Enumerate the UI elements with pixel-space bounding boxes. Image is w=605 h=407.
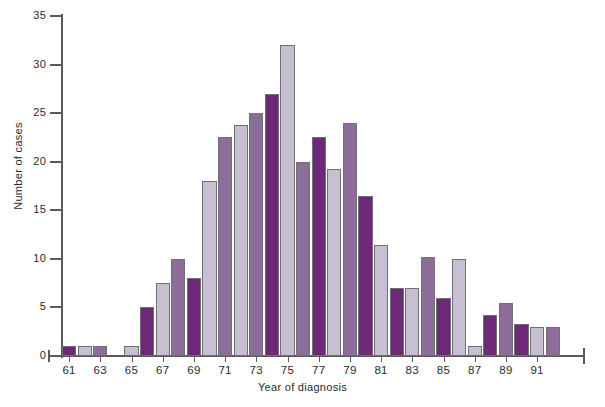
x-tick-73 [256, 355, 257, 362]
y-tick-label-wrap: 30 [20, 59, 46, 71]
x-tick-69 [194, 355, 195, 362]
bar-67 [156, 283, 170, 356]
y-tick-0 [50, 355, 62, 357]
bar-77 [312, 137, 326, 356]
x-tick-label: 73 [243, 364, 269, 377]
y-tick-25 [50, 112, 62, 114]
bar-84 [421, 257, 435, 356]
bar-89 [499, 303, 513, 356]
y-tick-label: 20 [24, 156, 46, 167]
bar-80 [358, 196, 372, 356]
x-axis-title: Year of diagnosis [0, 381, 605, 393]
y-tick-label-wrap: 10 [20, 253, 46, 265]
bar-68 [171, 259, 185, 356]
y-tick-label: 30 [24, 59, 46, 70]
y-tick-30 [50, 64, 62, 66]
x-axis-end-tick [583, 348, 585, 364]
bar-73 [249, 113, 263, 356]
x-tick-label: 61 [56, 364, 82, 377]
y-tick-label: 25 [24, 107, 46, 118]
bar-61 [62, 346, 76, 356]
bar-85 [436, 298, 450, 356]
bar-69 [187, 278, 201, 356]
bar-chart: 05101520253035 6163656769717375777981838… [0, 0, 605, 407]
bar-91 [530, 327, 544, 356]
x-tick-61 [69, 355, 70, 362]
x-tick-63 [100, 355, 101, 362]
bar-79 [343, 123, 357, 356]
x-tick-81 [381, 355, 382, 362]
x-tick-label: 67 [150, 364, 176, 377]
bar-63 [93, 346, 107, 356]
y-tick-label-wrap: 0 [20, 350, 46, 362]
x-tick-label: 85 [431, 364, 457, 377]
x-tick-89 [506, 355, 507, 362]
y-tick-label: 15 [24, 204, 46, 215]
bar-82 [390, 288, 404, 356]
y-tick-label-wrap: 35 [20, 10, 46, 22]
x-tick-label: 89 [493, 364, 519, 377]
y-axis-title: Number of cases [12, 96, 24, 236]
x-tick-71 [225, 355, 226, 362]
x-tick-77 [319, 355, 320, 362]
bar-90 [514, 324, 528, 356]
x-tick-label: 87 [462, 364, 488, 377]
x-tick-label: 77 [306, 364, 332, 377]
y-tick-15 [50, 209, 62, 211]
bar-71 [218, 137, 232, 356]
x-tick-label: 81 [368, 364, 394, 377]
bar-75 [280, 45, 294, 356]
y-tick-35 [50, 15, 62, 17]
bar-70 [202, 181, 216, 356]
x-tick-67 [163, 355, 164, 362]
bar-72 [234, 125, 248, 356]
bar-87 [468, 346, 482, 356]
y-tick-label: 10 [24, 253, 46, 264]
bar-66 [140, 307, 154, 356]
x-tick-87 [475, 355, 476, 362]
x-tick-label: 83 [399, 364, 425, 377]
bar-81 [374, 245, 388, 356]
bar-83 [405, 288, 419, 356]
x-tick-79 [350, 355, 351, 362]
bar-76 [296, 162, 310, 356]
y-tick-label-wrap: 5 [20, 301, 46, 313]
bar-78 [327, 169, 341, 356]
x-tick-65 [132, 355, 133, 362]
bar-74 [265, 94, 279, 356]
x-tick-label: 69 [181, 364, 207, 377]
x-tick-91 [537, 355, 538, 362]
y-tick-label: 5 [24, 301, 46, 312]
y-tick-10 [50, 258, 62, 260]
x-tick-75 [288, 355, 289, 362]
x-tick-label: 63 [87, 364, 113, 377]
bar-86 [452, 259, 466, 356]
y-tick-label: 35 [24, 10, 46, 21]
bar-65 [124, 346, 138, 356]
y-tick-20 [50, 161, 62, 163]
x-tick-label: 91 [524, 364, 550, 377]
bar-88 [483, 315, 497, 356]
x-tick-label: 65 [119, 364, 145, 377]
x-tick-85 [444, 355, 445, 362]
y-tick-5 [50, 306, 62, 308]
x-tick-83 [412, 355, 413, 362]
y-tick-label: 0 [24, 350, 46, 361]
x-tick-label: 75 [275, 364, 301, 377]
bar-92 [546, 327, 560, 356]
x-tick-label: 71 [212, 364, 238, 377]
bar-62 [78, 346, 92, 356]
x-tick-label: 79 [337, 364, 363, 377]
